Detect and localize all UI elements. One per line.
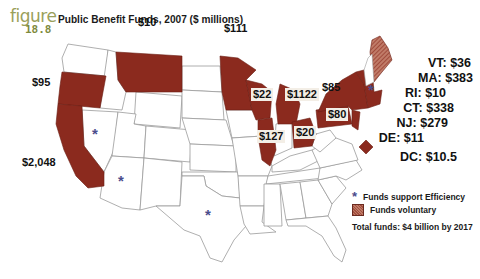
ne-row-ri: RI: $10: [405, 86, 446, 100]
ne-row-ct: CT: $338: [403, 101, 454, 115]
label-pa: $80: [326, 108, 348, 121]
ne-row-nj: NJ: $279: [397, 116, 448, 130]
ne-row-dc: DC: $10.5: [400, 150, 457, 164]
state-mt: [116, 52, 182, 92]
state-outlines: [62, 44, 362, 262]
label-mn: $111: [224, 23, 247, 34]
legend-item-voluntary: Funds voluntary: [352, 204, 436, 216]
state-ks: [190, 144, 236, 172]
legend-item-efficiency: * Funds support Efficiency: [352, 190, 465, 203]
state-sd: [182, 90, 224, 120]
state-nd: [182, 66, 222, 92]
star-icon-az: *: [118, 173, 124, 188]
label-or: $95: [32, 77, 50, 88]
state-ar: [238, 176, 268, 206]
legend-label-efficiency: Funds support Efficiency: [363, 192, 465, 202]
state-ms: [264, 184, 282, 226]
state-or: [58, 72, 106, 108]
state-fl: [286, 216, 346, 262]
label-ny: $85: [322, 82, 340, 93]
label-oh: $20: [294, 126, 316, 139]
label-mi: $1122: [285, 88, 319, 101]
ne-row-vt: VT: $36: [428, 56, 471, 70]
state-wa: [62, 44, 108, 76]
label-mt: $10: [138, 17, 156, 28]
legend-label-voluntary: Funds voluntary: [370, 205, 436, 215]
star-icon: *: [352, 190, 357, 203]
ne-row-de: DE: $11: [379, 131, 424, 145]
state-wy: [134, 92, 182, 128]
star-icon-nv: *: [92, 126, 98, 141]
star-icon-nh: *: [368, 82, 374, 97]
state-nj: [352, 110, 360, 130]
label-ca: $2,048: [22, 157, 56, 168]
star-icon-tx: *: [205, 207, 211, 222]
total-funds-note: Total funds: $4 billion by 2017: [352, 222, 473, 232]
ne-row-ma: MA: $383: [418, 71, 473, 85]
state-nm: [140, 158, 182, 210]
hatched-swatch-icon: [352, 204, 364, 216]
state-ne: [182, 118, 234, 146]
dc-diamond: [359, 140, 373, 154]
state-co: [144, 126, 192, 162]
label-il: $127: [257, 130, 285, 143]
label-wi: $22: [251, 88, 273, 101]
